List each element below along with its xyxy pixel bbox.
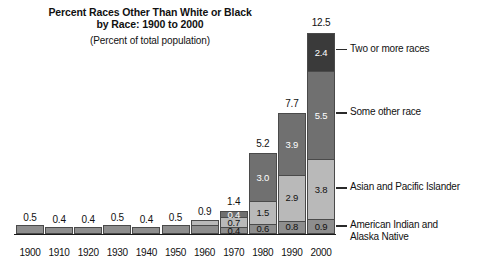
bar-total-label-1920: 0.4 — [82, 214, 95, 225]
legend-leader-line — [336, 187, 347, 189]
legend-label-line-2: Alaska Native — [350, 231, 438, 243]
bar-total-label-2000: 12.5 — [312, 17, 331, 28]
x-axis-tick-2000: 2000 — [304, 247, 338, 258]
bar-total-label-1940: 0.4 — [140, 214, 153, 225]
bar-total-wrap: 1.4 — [220, 8, 248, 235]
bar-total-wrap: 7.7 — [278, 8, 306, 235]
legend: Two or more racesSome other raceAsian an… — [336, 0, 493, 267]
bar-total-wrap: 0.5 — [103, 8, 131, 235]
bar-total-wrap: 0.9 — [191, 8, 219, 235]
legend-item-2[interactable]: Asian and Pacific Islander — [336, 181, 460, 193]
bar-total-wrap: 5.2 — [249, 8, 277, 235]
bar-total-wrap: 0.4 — [132, 8, 160, 235]
bar-total-wrap: 12.5 — [307, 8, 335, 235]
bar-total-label-1970: 1.4 — [227, 196, 240, 207]
bar-total-wrap: 0.4 — [45, 8, 73, 235]
legend-item-1[interactable]: Some other race — [336, 106, 421, 118]
bar-total-label-1990: 7.7 — [285, 98, 298, 109]
bar-total-label-1950: 0.5 — [169, 212, 182, 223]
bar-total-label-1980: 5.2 — [256, 138, 269, 149]
legend-leader-line — [336, 112, 347, 114]
bar-total-label-1960: 0.9 — [198, 206, 211, 217]
bar-total-wrap: 0.4 — [74, 8, 102, 235]
legend-leader-line — [336, 225, 347, 227]
legend-item-3[interactable]: American Indian andAlaska Native — [336, 219, 438, 243]
legend-label: Asian and Pacific Islander — [350, 181, 460, 193]
legend-label: Some other race — [350, 106, 421, 118]
bar-total-label-1930: 0.5 — [111, 212, 124, 223]
legend-label-line-1: American Indian and — [350, 219, 438, 231]
bar-total-label-1910: 0.4 — [52, 214, 65, 225]
legend-leader-line — [336, 49, 347, 51]
bar-total-wrap: 0.5 — [162, 8, 190, 235]
legend-label: Two or more races — [350, 43, 429, 55]
bar-total-wrap: 0.5 — [16, 8, 44, 235]
plot-area: 0.519000.419100.419200.519300.419400.519… — [14, 8, 334, 235]
bar-total-label-1900: 0.5 — [23, 212, 36, 223]
chart-page: Percent Races Other Than White or Black … — [0, 0, 493, 267]
legend-item-0[interactable]: Two or more races — [336, 43, 429, 55]
legend-label: American Indian andAlaska Native — [350, 219, 438, 243]
